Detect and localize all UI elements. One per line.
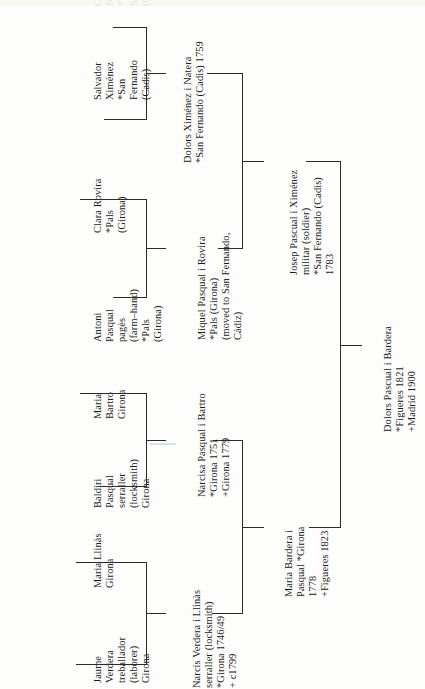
line: Salvador — [92, 60, 104, 100]
connector-clara-stub — [80, 199, 146, 200]
line: Verdera — [104, 637, 116, 683]
line: serraller — [116, 459, 128, 508]
line: Narcís Verdera i Llinàs — [191, 590, 203, 688]
line: Fernando — [128, 60, 140, 100]
line: Narcisa Pasqual i Bartro — [196, 393, 208, 497]
person-text-caterina-natera: Caterina Natera *Medina Sidònia (Cadis) — [92, 0, 152, 6]
line: *San Fernando (Cadis) — [312, 170, 324, 275]
connector-to-dolors-ximenez — [146, 73, 166, 74]
line: Maria Bardera i — [283, 527, 295, 597]
person-text-baldiri-pasqual: Baldiri Pasqual serraller (locksmith) Gi… — [92, 459, 152, 508]
line: serraller (locksmith) — [203, 590, 215, 688]
connector-antoni-stub — [113, 297, 146, 298]
person-text-narcisa-pasqual: Narcisa Pasqual i Bartro *Girona 1751 +G… — [196, 393, 232, 497]
connector-to-maria-bardera — [242, 527, 264, 528]
line: Miquel Pasqual i Rovira — [196, 233, 208, 340]
line: *Girona 1746/49 — [215, 590, 227, 688]
person-text-clara-rovira: Clara Rovira *Pals (Girona) — [92, 178, 128, 233]
connector-dolors-ximenez-stub — [207, 73, 242, 74]
connector-josep-stub — [306, 161, 340, 162]
line: Pasqual — [104, 459, 116, 508]
line: (locksmith) — [128, 459, 140, 508]
person-text-narcis-verdera: Narcís Verdera i Llinàs serraller (locks… — [191, 590, 239, 688]
line: *San — [116, 60, 128, 100]
line: 1783 — [324, 170, 336, 275]
line: Caterina — [92, 0, 104, 6]
line: +Figueres 1823 — [319, 527, 331, 597]
line: Pasqual *Girona — [295, 527, 307, 597]
person-text-jaume-verdera: Jaume Verdera treballador (laborer) Giro… — [92, 637, 152, 683]
line: (laborer) — [128, 637, 140, 683]
line: Jaume — [92, 637, 104, 683]
line: treballador — [116, 637, 128, 683]
person-text-dolors-pascual: Dolors Pascual i Bardera *Figueres 1821 … — [382, 326, 418, 432]
connector-jaume-stub — [76, 664, 146, 665]
person-text-maria-bardera: Maria Bardera i Pasqual *Girona 1778 +Fi… — [283, 527, 331, 597]
connector-to-narcis-verdera — [146, 613, 166, 614]
person-text-josep-pascual: Josep Pascual i Ximénez militar (soldier… — [288, 170, 336, 275]
line: Maria Llinàs — [92, 533, 104, 588]
line: *Figueres 1821 — [394, 326, 406, 432]
connector-salvador-stub — [104, 119, 146, 120]
person-text-dolors-ximenez: Dolors Ximénez i Natera *San Fernando (C… — [182, 41, 206, 163]
line: Dolors Pascual i Bardera — [382, 326, 394, 432]
line: Baldiri — [92, 459, 104, 508]
line: *Pals — [104, 178, 116, 233]
line: Antoni — [92, 289, 104, 342]
line: Natera — [104, 0, 116, 6]
connector-caterina-stub — [113, 27, 146, 28]
line: Dolors Ximénez i Natera — [182, 41, 194, 163]
connector-maria-bartro-stub — [80, 393, 146, 394]
connector-maria-llinas-stub — [76, 562, 146, 563]
line: + c1799 — [227, 590, 239, 688]
connector-baldiri-stub — [99, 486, 146, 487]
line: *Medina — [116, 0, 128, 6]
connector-maria-bardera-stub — [309, 527, 340, 528]
line: +Madrid 1900 — [406, 326, 418, 432]
line: militar (soldier) — [300, 170, 312, 275]
genealogy-chart: Caterina Natera *Medina Sidònia (Cadis) … — [0, 0, 425, 689]
line: (Girona) — [152, 289, 164, 342]
connector-to-narcisa-pasqual — [146, 440, 166, 441]
line: (Girona) — [116, 178, 128, 233]
line: (Cadis) — [140, 0, 152, 6]
line: Clara Rovira — [92, 178, 104, 233]
connector-to-josep-pascual — [242, 161, 264, 162]
person-text-maria-llinas: Maria Llinàs Girona — [92, 533, 116, 588]
scan-artifact — [150, 443, 176, 445]
line: +Girona 1779 — [220, 393, 232, 497]
line: *San Fernando (Cadis) 1759 — [194, 41, 206, 163]
line: *Girona 1751 — [208, 393, 220, 497]
line: 1778 — [307, 527, 319, 597]
line: Sidònia — [128, 0, 140, 6]
line: Girona — [104, 533, 116, 588]
connector-narcis-verdera-stub — [212, 613, 242, 614]
person-text-salvador-ximenez: Salvador Ximénez *San Fernando (Cadis) — [92, 60, 152, 100]
connector-miquel-stub — [218, 248, 242, 249]
scan-artifact — [0, 0, 425, 6]
connector-to-miquel-pasqual — [146, 248, 166, 249]
line: Josep Pascual i Ximénez — [288, 170, 300, 275]
line: Ximénez — [104, 60, 116, 100]
connector-to-dolors-pascual — [340, 345, 362, 346]
connector-narcisa-stub — [213, 440, 242, 441]
